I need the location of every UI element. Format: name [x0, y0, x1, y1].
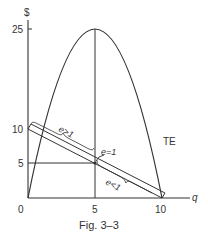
y-tick-label-5: 5 — [18, 158, 24, 169]
label-e-gt-1: e>1 — [57, 124, 75, 140]
label-te: TE — [163, 136, 176, 147]
x-tick-label-5: 5 — [92, 204, 98, 215]
x-axis-label: q — [192, 192, 198, 203]
y-axis-label: $ — [24, 7, 30, 18]
unit-elasticity-point — [93, 161, 96, 164]
label-e-lt-1: e<1 — [104, 177, 122, 193]
y-tick-label-25: 25 — [12, 24, 24, 35]
x-tick-label-10: 10 — [155, 204, 167, 215]
figure-caption: Fig. 3–3 — [79, 219, 119, 231]
x-tick-label-0: 0 — [18, 204, 24, 215]
label-e-eq-1: e=1 — [101, 147, 116, 157]
y-tick-label-10: 10 — [12, 124, 24, 135]
chart: $ q 25 10 5 0 5 10 e>1 e=1 e<1 TE Fig. 3… — [0, 0, 208, 239]
